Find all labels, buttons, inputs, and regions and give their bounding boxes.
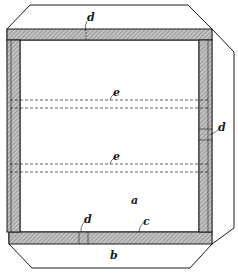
label-a: a (131, 194, 138, 207)
left-post (7, 40, 20, 232)
label-d-bottom: d (84, 213, 92, 226)
label-e-upper: e (113, 86, 120, 99)
bottom-bar (9, 232, 212, 244)
inner-panel (20, 40, 199, 232)
label-b: b (110, 249, 118, 262)
top-bar (7, 29, 212, 40)
label-c: c (143, 215, 150, 228)
label-d-top: d (87, 11, 95, 24)
label-e-lower: e (113, 150, 120, 163)
frame-diagram: d e d e a d c b (0, 0, 238, 275)
right-post (199, 40, 212, 232)
label-d-right: d (218, 121, 226, 134)
